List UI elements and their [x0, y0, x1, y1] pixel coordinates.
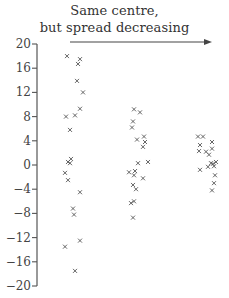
x-marker-icon — [66, 178, 70, 182]
x-marker-icon — [131, 183, 135, 187]
x-marker-icon — [71, 207, 75, 211]
x-marker-icon — [63, 171, 67, 175]
x-marker-icon — [78, 239, 82, 243]
y-tick-label: −20 — [6, 279, 31, 293]
x-marker-icon — [131, 216, 135, 220]
x-marker-icon — [210, 147, 214, 151]
x-marker-icon — [131, 119, 135, 123]
y-tick-label: −8 — [13, 206, 31, 220]
series-group-2 — [127, 107, 150, 219]
x-marker-icon — [78, 190, 82, 194]
y-tick-label: 4 — [23, 134, 31, 148]
x-marker-icon — [132, 173, 136, 177]
series-group-1 — [63, 54, 85, 273]
x-marker-icon — [138, 110, 142, 114]
y-tick-label: 8 — [23, 110, 31, 124]
x-marker-icon — [72, 213, 76, 217]
x-marker-icon — [81, 90, 85, 94]
x-marker-icon — [76, 62, 80, 66]
x-marker-icon — [201, 135, 205, 139]
y-tick-label: −4 — [13, 182, 31, 196]
x-marker-icon — [198, 143, 202, 147]
y-tick-label: −16 — [6, 255, 31, 269]
x-marker-icon — [68, 128, 72, 132]
x-marker-icon — [141, 176, 145, 180]
x-marker-icon — [130, 125, 134, 129]
x-marker-icon — [210, 188, 214, 192]
x-marker-icon — [127, 170, 131, 174]
x-marker-icon — [198, 168, 202, 172]
x-marker-icon — [78, 107, 82, 111]
x-marker-icon — [133, 169, 137, 173]
series-group-3 — [196, 135, 218, 193]
x-marker-icon — [63, 245, 67, 249]
y-tick-label: 0 — [23, 158, 31, 172]
x-marker-icon — [78, 57, 82, 61]
y-tick-label: 20 — [16, 37, 31, 51]
x-marker-icon — [207, 153, 211, 157]
x-marker-icon — [196, 135, 200, 139]
x-marker-icon — [73, 269, 77, 273]
x-marker-icon — [136, 161, 140, 165]
x-marker-icon — [142, 135, 146, 139]
x-marker-icon — [197, 149, 201, 153]
x-marker-icon — [141, 145, 145, 149]
x-marker-icon — [210, 140, 214, 144]
x-marker-icon — [134, 187, 138, 191]
x-marker-icon — [64, 115, 68, 119]
x-marker-icon — [212, 181, 216, 185]
x-marker-icon — [75, 79, 79, 83]
x-marker-icon — [206, 165, 210, 169]
x-marker-icon — [213, 173, 217, 177]
x-marker-icon — [143, 140, 147, 144]
x-marker-icon — [132, 107, 136, 111]
y-tick-label: 16 — [16, 61, 31, 75]
x-marker-icon — [65, 54, 69, 58]
y-tick-label: 12 — [16, 85, 31, 99]
data-points — [63, 54, 218, 273]
x-marker-icon — [73, 113, 77, 117]
spread-decreasing-arrow-icon — [70, 39, 212, 45]
y-tick-label: −12 — [6, 231, 31, 245]
plot-area: 201612840−4−8−12−16−20 — [0, 0, 229, 298]
x-marker-icon — [146, 160, 150, 164]
y-axis: 201612840−4−8−12−16−20 — [6, 37, 37, 293]
scatter-chart: Same centre, but spread decreasing 20161… — [0, 0, 229, 298]
x-marker-icon — [135, 138, 139, 142]
